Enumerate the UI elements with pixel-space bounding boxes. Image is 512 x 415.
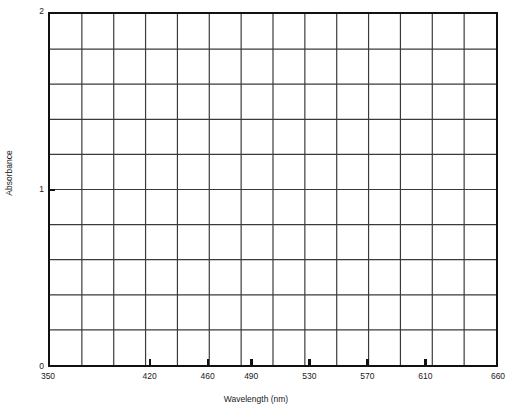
x-axis-tick-mark — [366, 359, 369, 367]
chart-figure: · · 012 Absorbance 350420460490530570610… — [0, 0, 512, 415]
x-axis-tick-label: 570 — [347, 371, 387, 381]
y-axis-tick-mark — [48, 189, 55, 192]
x-axis-tick-label: 530 — [289, 371, 329, 381]
x-axis-tick-mark — [250, 359, 253, 367]
x-axis-tick-mark — [424, 359, 427, 367]
x-axis-tick-label: 460 — [188, 371, 228, 381]
clipped-title-remnant: · · — [0, 0, 512, 1]
x-axis-tick-mark — [149, 359, 152, 367]
x-axis-tick-mark — [308, 359, 311, 367]
y-axis-tick-label: 0 — [22, 362, 44, 371]
x-axis-tick-mark — [207, 359, 210, 367]
y-axis-tick-labels: 012 — [16, 0, 44, 415]
x-axis-tick-label: 350 — [28, 371, 68, 381]
y-axis-title: Absorbance — [4, 128, 14, 218]
gridlines — [50, 14, 496, 365]
y-axis-tick-label: 1 — [22, 185, 44, 194]
y-axis-tick-label: 2 — [22, 7, 44, 16]
x-axis-title: Wavelength (nm) — [0, 394, 512, 404]
x-axis-tick-label: 420 — [130, 371, 170, 381]
x-axis-tick-label: 660 — [478, 371, 512, 381]
plot-area — [48, 12, 498, 367]
x-axis-tick-label: 610 — [405, 371, 445, 381]
x-axis-tick-label: 490 — [231, 371, 271, 381]
